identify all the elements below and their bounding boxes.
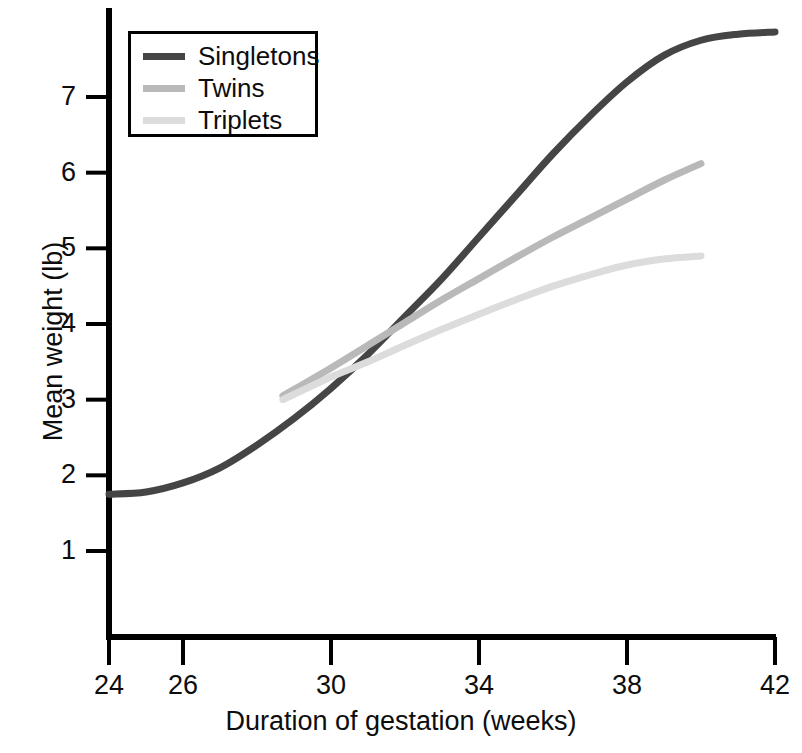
legend-item-triplets[interactable]: Triplets [143,104,282,136]
legend-swatch-triplets [143,117,185,124]
x-tick-label: 26 [143,672,223,699]
y-tick-label: 7 [0,83,76,110]
series-line-twins [283,164,701,396]
y-axis-title: Mean weight (lb) [38,192,69,492]
legend-swatch-singletons [143,53,185,60]
y-tick-label: 1 [0,537,76,564]
x-axis-ticks [109,637,775,665]
legend-label-triplets: Triplets [198,107,282,133]
x-tick-label: 38 [587,672,667,699]
x-tick-label: 42 [735,672,802,699]
legend-label-singletons: Singletons [198,43,319,69]
x-tick-label: 34 [439,672,519,699]
legend-item-twins[interactable]: Twins [143,72,264,104]
chart-container: 1234567242630343842 Mean weight (lb) Dur… [0,0,802,753]
x-tick-label: 24 [69,672,149,699]
x-axis-title: Duration of gestation (weeks) [0,706,802,737]
x-tick-label: 30 [291,672,371,699]
y-tick-label: 6 [0,159,76,186]
plot-area [0,0,802,753]
legend-item-singletons[interactable]: Singletons [143,40,319,72]
legend[interactable]: Singletons Twins Triplets [128,31,318,137]
legend-swatch-twins [143,85,185,92]
legend-label-twins: Twins [198,75,264,101]
y-axis-ticks [86,97,109,551]
